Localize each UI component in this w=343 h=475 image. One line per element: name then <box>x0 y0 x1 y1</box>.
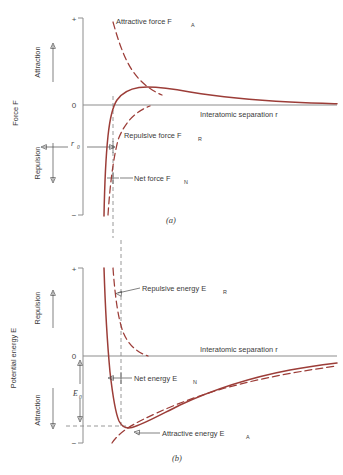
panel-a-label-repulsive-force-sub: R <box>198 136 202 142</box>
panel-b-y-axis-title: Potential energy E <box>9 328 18 388</box>
panel-b-tick-minus: − <box>72 439 77 448</box>
panel-a-label-attractive-force-sub: A <box>191 22 195 28</box>
panel-b-x-axis-title: Interatomic separation r <box>200 345 278 354</box>
panel-a-label-attractive-force: Attractive force F <box>116 17 172 26</box>
panel-b-repulsion-label: Repulsion <box>33 292 42 325</box>
panel-a-attraction-label: Attraction <box>33 46 42 77</box>
panel-b-label-attractive-energy: Attractive energy E <box>162 429 225 438</box>
panel-b-label-repulsive-energy-sub: R <box>223 289 227 295</box>
panel-a-tick-zero: 0 <box>72 101 77 110</box>
panel-a-repulsion-label: Repulsion <box>33 147 42 180</box>
figure-background <box>0 0 343 475</box>
panel-a-label-net-force-sub: N <box>184 179 188 185</box>
panel-a-x-axis-title: Interatomic separation r <box>200 110 278 119</box>
panel-b-e0-label: E <box>72 389 78 398</box>
panel-b-label-net-energy-sub: N <box>193 379 197 385</box>
panel-b-tick-zero: 0 <box>72 352 77 361</box>
panel-a-label-repulsive-force: Repulsive force F <box>124 131 182 140</box>
panel-b-e0-sub: 0 <box>79 394 82 400</box>
panel-b-tick-plus: + <box>72 265 77 274</box>
panel-b-label-attractive-energy-sub: A <box>246 434 250 440</box>
panel-a-r0-sub: 0 <box>77 144 80 150</box>
panel-b-caption: (b) <box>172 453 182 463</box>
panel-a-caption: (a) <box>166 215 176 225</box>
panel-b-label-net-energy: Net energy E <box>134 374 177 383</box>
panel-b-attraction-label: Attraction <box>33 394 42 425</box>
panel-b-label-repulsive-energy: Repulsive energy E <box>142 284 206 293</box>
interatomic-figure: + 0 − Force F Attraction Repulsion Inter… <box>0 0 343 475</box>
panel-a-y-axis-title: Force F <box>11 100 20 126</box>
panel-a-tick-minus: − <box>72 211 77 220</box>
panel-a-tick-plus: + <box>72 15 77 24</box>
panel-a-label-net-force: Net force F <box>134 174 171 183</box>
